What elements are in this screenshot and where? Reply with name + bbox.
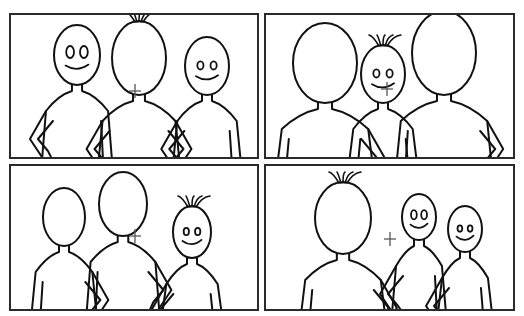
head bbox=[54, 25, 100, 85]
head bbox=[293, 23, 357, 103]
figure-facing-front bbox=[30, 25, 112, 157]
head bbox=[448, 206, 482, 252]
head bbox=[43, 188, 85, 246]
panel-scene bbox=[11, 15, 257, 157]
panel-top-left bbox=[9, 13, 259, 159]
head bbox=[361, 45, 405, 103]
figure-facing-front bbox=[150, 196, 221, 309]
hair-tuft-icon bbox=[329, 172, 361, 183]
head bbox=[402, 194, 436, 240]
panel-bottom-right bbox=[264, 164, 515, 311]
fixation-cross-icon bbox=[384, 232, 396, 246]
panel-scene bbox=[11, 166, 257, 309]
panel-top-right bbox=[264, 13, 515, 159]
head bbox=[99, 172, 147, 236]
head bbox=[185, 37, 229, 95]
figure-facing-front bbox=[380, 194, 446, 309]
figure-facing-back bbox=[87, 172, 172, 309]
head bbox=[173, 206, 211, 258]
head bbox=[412, 15, 476, 95]
hair-tuft-icon bbox=[178, 196, 210, 207]
panel-bottom-left bbox=[9, 164, 259, 311]
hair-tuft-icon bbox=[369, 35, 401, 46]
figure-facing-front bbox=[161, 37, 240, 157]
head bbox=[112, 21, 166, 95]
panel-scene bbox=[266, 15, 513, 157]
hair-tuft-icon bbox=[125, 15, 157, 22]
panel-scene bbox=[266, 166, 513, 309]
head bbox=[315, 182, 371, 254]
